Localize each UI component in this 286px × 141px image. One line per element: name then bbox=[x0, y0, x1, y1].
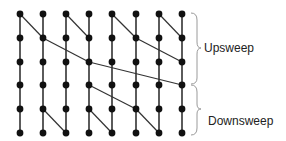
upsweep-edge bbox=[66, 14, 89, 38]
node bbox=[179, 82, 186, 89]
node bbox=[156, 130, 163, 137]
node bbox=[40, 82, 47, 89]
node bbox=[133, 11, 140, 18]
node bbox=[179, 106, 186, 113]
node bbox=[63, 59, 70, 66]
node bbox=[156, 59, 163, 66]
node bbox=[156, 35, 163, 42]
node bbox=[86, 82, 93, 89]
node bbox=[156, 11, 163, 18]
node bbox=[63, 35, 70, 42]
nodes bbox=[17, 11, 186, 137]
node bbox=[40, 130, 47, 137]
node bbox=[86, 11, 93, 18]
node bbox=[63, 130, 70, 137]
node bbox=[63, 11, 70, 18]
node bbox=[109, 59, 116, 66]
node bbox=[86, 130, 93, 137]
node bbox=[109, 35, 116, 42]
node bbox=[156, 106, 163, 113]
upsweep-label: Upsweep bbox=[204, 41, 254, 55]
node bbox=[17, 106, 24, 113]
node bbox=[133, 106, 140, 113]
upsweep-edge bbox=[159, 14, 182, 38]
node bbox=[40, 106, 47, 113]
node bbox=[179, 130, 186, 137]
node bbox=[133, 59, 140, 66]
node bbox=[40, 35, 47, 42]
node bbox=[133, 35, 140, 42]
node bbox=[109, 82, 116, 89]
node bbox=[17, 35, 24, 42]
downsweep-edge bbox=[43, 109, 66, 133]
node bbox=[86, 106, 93, 113]
node bbox=[17, 11, 24, 18]
node bbox=[179, 35, 186, 42]
node bbox=[63, 106, 70, 113]
downsweep-brace bbox=[191, 85, 201, 135]
node bbox=[40, 59, 47, 66]
node bbox=[40, 11, 47, 18]
node bbox=[133, 82, 140, 89]
node bbox=[109, 130, 116, 137]
node bbox=[17, 82, 24, 89]
node bbox=[17, 59, 24, 66]
edges bbox=[20, 14, 182, 133]
downsweep-edge bbox=[89, 109, 112, 133]
vertical-lines bbox=[20, 14, 182, 133]
downsweep-edge bbox=[136, 109, 159, 133]
node bbox=[86, 35, 93, 42]
node bbox=[17, 130, 24, 137]
upsweep-brace bbox=[191, 13, 201, 84]
upsweep-edge bbox=[112, 14, 136, 38]
node bbox=[109, 11, 116, 18]
node bbox=[179, 11, 186, 18]
node bbox=[133, 130, 140, 137]
node bbox=[156, 82, 163, 89]
node bbox=[179, 59, 186, 66]
upsweep-edge bbox=[20, 14, 43, 38]
node bbox=[109, 106, 116, 113]
node bbox=[86, 59, 93, 66]
downsweep-label: Downsweep bbox=[208, 114, 273, 128]
node bbox=[63, 82, 70, 89]
